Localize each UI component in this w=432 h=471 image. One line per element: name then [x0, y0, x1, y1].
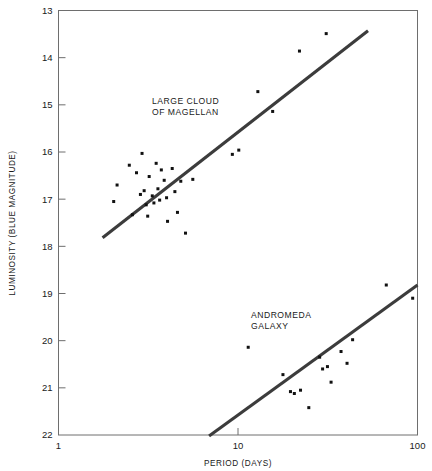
data-point: [139, 193, 142, 196]
data-point: [184, 232, 187, 235]
data-point: [155, 162, 158, 165]
annotation-andromeda-galaxy: ANDROMEDAGALAXY: [251, 310, 311, 331]
y-tick-label: 19: [42, 288, 53, 299]
x-tick-label: 10: [233, 440, 244, 451]
data-point: [271, 110, 274, 113]
data-point: [299, 389, 302, 392]
data-point: [351, 338, 354, 341]
data-point: [152, 201, 155, 204]
data-point: [163, 179, 166, 182]
data-point: [145, 203, 148, 206]
annotation-large-cloud-of-magellan: LARGE CLOUDOF MAGELLAN: [152, 96, 219, 117]
y-tick-label: 17: [42, 194, 53, 205]
data-point: [247, 346, 250, 349]
y-tick-label: 20: [42, 335, 53, 346]
data-point: [112, 200, 115, 203]
trend-line: [209, 285, 417, 436]
y-tick-label: 21: [42, 382, 53, 393]
trend-line: [103, 31, 368, 238]
data-point: [411, 297, 414, 300]
data-point: [135, 171, 138, 174]
data-point: [179, 180, 182, 183]
cepheid-period-luminosity-chart: 13141516171819202122 110100 LUMINOSITY (…: [0, 0, 432, 471]
trend-lines-group: [103, 31, 418, 436]
data-point: [340, 350, 343, 353]
data-point: [158, 199, 161, 202]
y-axis-title: LUMINOSITY (BLUE MAGNITUDE): [8, 150, 17, 295]
y-tick-label: 14: [42, 52, 53, 63]
chart-canvas: 13141516171819202122 110100 LUMINOSITY (…: [0, 0, 432, 471]
x-tick-label: 100: [410, 440, 426, 451]
y-tick-label: 22: [42, 429, 53, 440]
y-tick-label: 18: [42, 241, 53, 252]
data-point: [141, 152, 144, 155]
data-point: [176, 211, 179, 214]
data-point: [318, 356, 321, 359]
series-annotations-group: LARGE CLOUDOF MAGELLANANDROMEDAGALAXY: [152, 96, 311, 331]
data-point: [293, 392, 296, 395]
data-point: [146, 215, 149, 218]
data-point: [191, 178, 194, 181]
data-point: [289, 390, 292, 393]
y-axis: 13141516171819202122: [42, 5, 66, 441]
data-point: [156, 187, 159, 190]
data-point: [346, 362, 349, 365]
y-tick-label: 13: [42, 5, 53, 16]
x-axis-title: PERIOD (DAYS): [204, 459, 272, 468]
data-point: [237, 149, 240, 152]
data-point: [166, 220, 169, 223]
plot-frame: [59, 11, 418, 436]
data-point: [143, 189, 146, 192]
data-point: [131, 213, 134, 216]
data-points-group: [112, 32, 414, 409]
data-point: [151, 194, 154, 197]
data-point: [326, 365, 329, 368]
plot-border: [59, 11, 418, 436]
data-point: [307, 406, 310, 409]
data-point: [325, 32, 328, 35]
data-point: [281, 373, 284, 376]
x-axis: 110100: [56, 428, 426, 451]
x-tick-label: 1: [56, 440, 61, 451]
data-point: [330, 381, 333, 384]
y-tick-label: 15: [42, 99, 53, 110]
data-point: [173, 190, 176, 193]
data-point: [385, 284, 388, 287]
data-point: [231, 153, 234, 156]
data-point: [148, 175, 151, 178]
data-point: [298, 50, 301, 53]
y-tick-label: 16: [42, 146, 53, 157]
data-point: [256, 90, 259, 93]
data-point: [128, 164, 131, 167]
data-point: [171, 167, 174, 170]
data-point: [116, 184, 119, 187]
data-point: [165, 196, 168, 199]
data-point: [160, 168, 163, 171]
data-point: [321, 367, 324, 370]
